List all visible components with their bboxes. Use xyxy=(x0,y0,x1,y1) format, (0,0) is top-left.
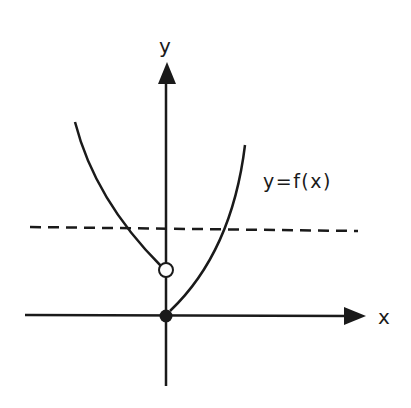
x-axis xyxy=(25,307,366,325)
origin-filled-point xyxy=(160,310,173,323)
x-axis-label: x xyxy=(378,305,390,329)
curve-left-branch xyxy=(75,122,161,266)
curve-label: y=f(x) xyxy=(263,170,332,192)
y-axis-label: y xyxy=(159,34,171,58)
y-axis xyxy=(158,62,176,386)
function-graph-diagram: y x y=f(x) xyxy=(0,0,411,408)
open-circle-point xyxy=(159,263,173,277)
y-axis-arrow-icon xyxy=(158,62,176,84)
x-axis-arrow-icon xyxy=(344,307,366,325)
dashed-reference-line xyxy=(30,227,358,231)
graph-svg: y x y=f(x) xyxy=(0,0,411,408)
